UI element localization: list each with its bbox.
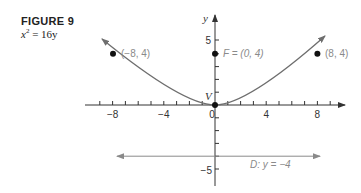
labeled-points: (−8, 4) (8, 4) F = (0, 4) V	[110, 48, 348, 108]
x-tick-label: 8	[315, 109, 321, 120]
parabola-diagram: −8 −4 0 4 8 y 5 −5 D: y = −4	[0, 0, 361, 193]
point-left-marker	[110, 51, 116, 57]
x-tick-label: −8	[107, 109, 119, 120]
point-right-label: (8, 4)	[325, 48, 348, 59]
focus-label: F = (0, 4)	[223, 48, 264, 59]
x-tick-label: 4	[263, 109, 269, 120]
y-axis-label: y	[202, 12, 208, 24]
vertex-marker	[212, 102, 218, 108]
point-right-marker	[314, 51, 320, 57]
directrix: D: y = −4	[117, 156, 320, 170]
point-left-label: (−8, 4)	[121, 48, 150, 59]
vertex-label: V	[205, 90, 213, 102]
y-tick-label: −5	[201, 165, 213, 176]
parabola	[102, 36, 325, 105]
x-tick-label: 0	[209, 109, 215, 120]
directrix-label: D: y = −4	[250, 159, 291, 170]
x-tick-label: −4	[158, 109, 170, 120]
focus-marker	[212, 51, 218, 57]
y-tick-label: 5	[205, 35, 211, 46]
